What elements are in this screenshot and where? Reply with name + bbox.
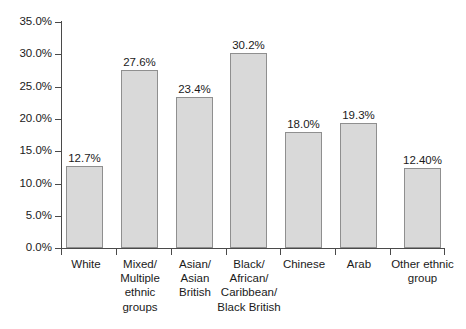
x-axis-tick [444,249,445,255]
bar-white[interactable] [66,166,103,248]
x-axis-label-chinese: Chinese [274,257,334,271]
x-axis-line [61,248,445,249]
x-axis-tick [171,249,172,255]
y-axis-label-20: 20.0% [0,113,52,125]
x-axis-label-line: ethnic [110,285,170,299]
x-axis-label-line: Other ethnic [386,257,459,271]
x-axis-label-line: groups [110,300,170,314]
bar-arab[interactable] [340,123,377,248]
x-axis-label-line: Caribbean/ [212,285,286,299]
y-axis-label-15: 15.0% [0,145,52,157]
x-axis-label-line: Mixed/ [110,257,170,271]
data-label-asian: 23.4% [169,83,220,95]
x-axis-label-arab: Arab [329,257,389,271]
y-axis-label-0: 0.0% [0,242,52,254]
y-axis-label-10: 10.0% [0,178,52,190]
data-label-mixed: 27.6% [114,56,165,68]
bar-asian[interactable] [176,97,213,248]
x-axis-label-line: group [386,271,459,285]
y-axis-line [61,21,62,249]
x-axis-tick [226,249,227,255]
x-axis-tick [61,249,62,255]
x-axis-label-other: Other ethnic group [386,257,459,285]
bar-chart: 35.0% 30.0% 25.0% 20.0% 15.0% 10.0% 5.0%… [0,0,466,329]
bar-mixed[interactable] [121,70,158,248]
x-axis-tick [335,249,336,255]
data-label-white: 12.7% [59,152,110,164]
y-axis-label-5: 5.0% [0,210,52,222]
y-axis-label-35: 35.0% [0,16,52,28]
data-label-chinese: 18.0% [278,118,329,130]
x-axis-label-line: Arab [329,257,389,271]
y-axis-label-30: 30.0% [0,48,52,60]
x-axis-label-mixed: Mixed/ Multiple ethnic groups [110,257,170,314]
x-axis-label-line: Multiple [110,271,170,285]
x-axis-label-line: African/ [212,271,286,285]
x-axis-label-line: White [56,257,116,271]
x-axis-label-white: White [56,257,116,271]
x-axis-tick [280,249,281,255]
x-axis-tick [116,249,117,255]
y-axis-label-25: 25.0% [0,81,52,93]
bar-black[interactable] [230,53,267,248]
x-axis-label-line: Chinese [274,257,334,271]
bar-other[interactable] [404,168,441,248]
data-label-black: 30.2% [223,39,274,51]
data-label-other: 12.40% [396,154,449,166]
x-axis-tick [390,249,391,255]
bar-chinese[interactable] [285,132,322,248]
data-label-arab: 19.3% [333,109,384,121]
x-axis-label-line: Black British [212,300,286,314]
